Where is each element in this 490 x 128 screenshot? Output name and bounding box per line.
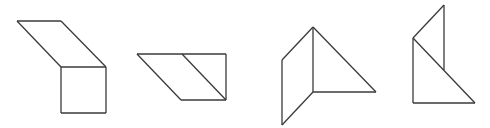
edge — [313, 27, 376, 92]
figure-4 — [413, 5, 475, 103]
diagram-canvas — [0, 0, 490, 128]
figure-1 — [17, 21, 106, 113]
figure-2 — [137, 54, 226, 100]
edge — [282, 27, 313, 60]
figure-3 — [282, 27, 376, 125]
edge — [137, 54, 181, 100]
edge — [61, 21, 106, 67]
edge — [182, 54, 226, 100]
edge — [413, 5, 444, 38]
edge — [282, 92, 313, 125]
edge — [17, 21, 61, 67]
